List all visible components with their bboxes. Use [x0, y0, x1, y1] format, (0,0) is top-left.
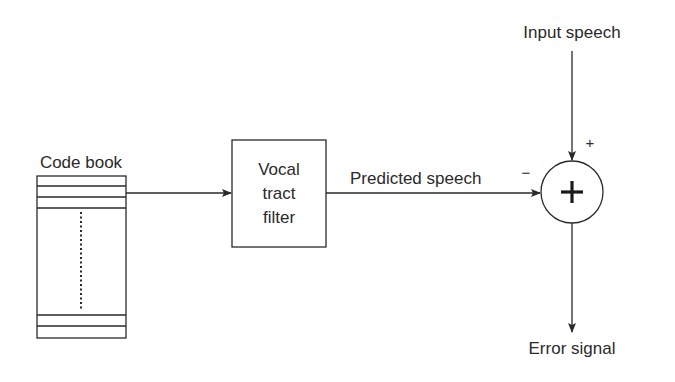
predicted-speech-label: Predicted speech: [350, 169, 481, 188]
codebook-label: Code book: [40, 153, 123, 172]
codebook-diagram: Code book Vocal tract filter Predicted s…: [0, 0, 675, 382]
plus-sign: +: [586, 134, 595, 151]
minus-sign: −: [522, 164, 531, 181]
summer-plus-icon: [561, 181, 583, 203]
filter-label-line3: filter: [263, 208, 295, 227]
input-speech-label: Input speech: [523, 23, 620, 42]
error-signal-label: Error signal: [529, 339, 616, 358]
filter-label-line2: tract: [262, 184, 295, 203]
filter-label-line1: Vocal: [258, 160, 300, 179]
codebook-block: [37, 176, 126, 338]
